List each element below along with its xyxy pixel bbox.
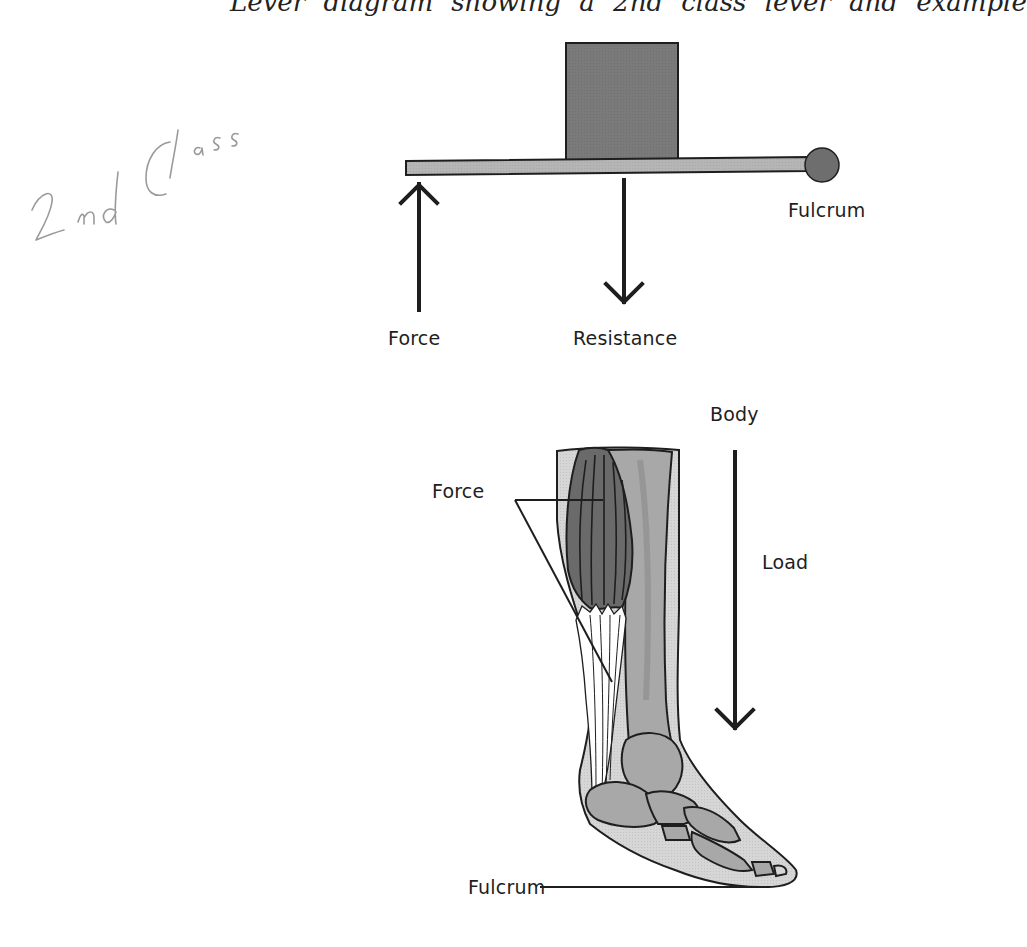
leg-anatomy-illustration [440,400,860,900]
force-arrow-up-icon [401,184,437,310]
anatomy-fulcrum-label: Fulcrum [468,876,545,898]
lever-resistance-label: Resistance [573,327,677,349]
cropped-header-text: Lever diagram showing a 2nd class lever … [230,0,1027,17]
body-load-arrow-down-icon [717,452,753,728]
lever-diagram [380,30,880,330]
lever-bar [406,157,810,175]
lever-fulcrum-label: Fulcrum [788,199,865,221]
fulcrum-ball [805,148,839,182]
resistance-load-box [566,43,678,160]
anatomy-body-label: Body [710,403,759,425]
anatomy-force-label: Force [432,480,484,502]
resistance-arrow-down-icon [606,180,642,302]
anatomy-load-label: Load [762,551,808,573]
handwritten-note: 2nd Class [10,120,270,260]
lever-force-label: Force [388,327,440,349]
